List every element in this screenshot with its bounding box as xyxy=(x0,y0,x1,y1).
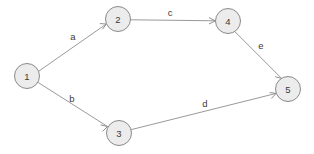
edge-b-line xyxy=(38,82,108,126)
node-3[interactable]: 3 xyxy=(107,121,132,146)
node-5-label: 5 xyxy=(285,84,290,95)
diagram-canvas: a b c d e 1 2 3 4 xyxy=(0,0,314,154)
node-3-label: 3 xyxy=(116,128,121,139)
node-2[interactable]: 2 xyxy=(106,7,131,32)
edge-label-e: e xyxy=(258,40,263,51)
edge-label-c: c xyxy=(168,7,173,18)
node-4-label: 4 xyxy=(225,16,230,27)
node-5[interactable]: 5 xyxy=(276,77,301,102)
edge-label-d: d xyxy=(202,98,207,109)
edge-label-b: b xyxy=(69,93,74,104)
node-1-label: 1 xyxy=(24,71,29,82)
edge-c xyxy=(131,18,216,24)
node-2-label: 2 xyxy=(115,14,120,25)
network-diagram-graphic: a b c d e 1 2 3 4 xyxy=(0,0,314,154)
nodes-group: 1 2 3 4 5 xyxy=(15,7,301,146)
edge-d-arrowhead xyxy=(270,93,276,99)
node-4[interactable]: 4 xyxy=(216,9,241,34)
edge-c-line xyxy=(131,20,216,21)
edge-label-a: a xyxy=(70,31,76,42)
edge-b xyxy=(38,82,108,131)
node-1[interactable]: 1 xyxy=(15,64,40,89)
